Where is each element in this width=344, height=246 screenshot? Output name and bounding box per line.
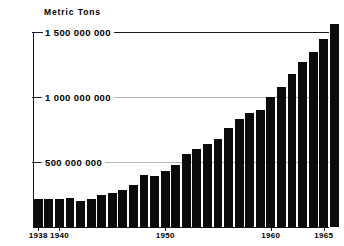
x-axis-tick-label: 1965 [314,231,333,240]
bar [55,199,64,227]
bar [192,149,201,227]
bar [171,165,180,227]
bar [298,62,307,227]
bar [150,176,159,227]
bar [118,190,127,227]
bar [277,87,286,227]
x-axis-tick-label: 1960 [261,231,280,240]
bar [34,199,43,227]
bar [97,195,106,228]
bar [87,199,96,227]
bar [235,119,244,227]
bar [224,128,233,227]
bar [203,144,212,227]
bar [44,199,53,227]
x-axis-tick-label: 1940 [50,231,69,240]
bar [245,113,254,227]
bar [161,171,170,227]
bar [256,110,265,227]
bar-series [0,0,344,246]
bar [309,52,318,227]
bar [140,175,149,227]
bar [108,193,117,227]
bar [129,185,138,227]
x-axis-tick-label: 1950 [156,231,175,240]
bar [330,24,339,227]
bar [266,97,275,227]
bar [182,154,191,227]
bar [288,74,297,227]
bar-chart-figure: Metric Tons 500 000 0001 000 000 0001 50… [0,0,344,246]
x-axis-tick-label: 1938 [29,231,48,240]
bar [319,39,328,227]
bar [66,198,75,227]
bar [76,201,85,227]
x-axis-line [33,227,329,228]
bar [214,139,223,227]
